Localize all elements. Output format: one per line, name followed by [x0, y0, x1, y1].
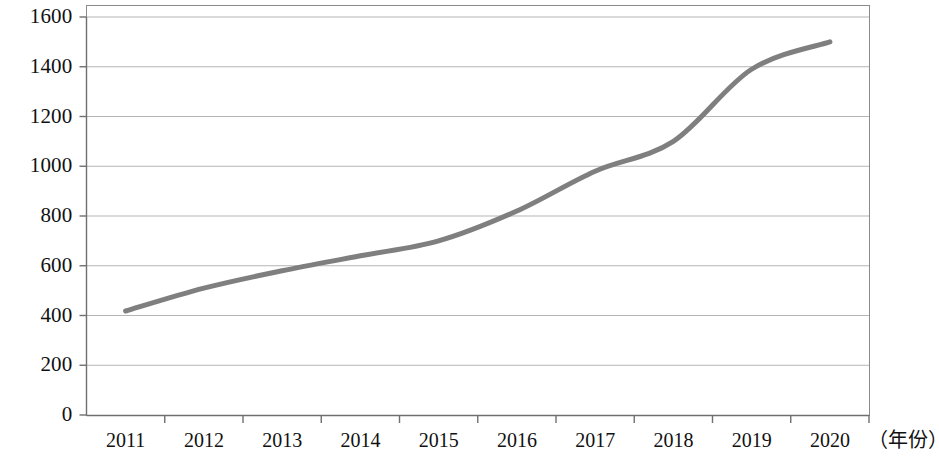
y-axis-tick-label: 1000 [30, 155, 73, 176]
x-axis-tick-label: 2011 [86, 430, 166, 450]
x-axis-unit-label: （年份） [868, 430, 939, 450]
x-axis-ticks [165, 415, 869, 423]
x-axis-tick-label: 2020 [790, 430, 870, 450]
x-axis-tick-label: 2015 [399, 430, 479, 450]
x-axis-tick-label: 2018 [633, 430, 713, 450]
y-axis-tick-label: 600 [40, 255, 72, 276]
y-axis-tick-label: 800 [40, 205, 72, 226]
y-axis-tick-label: 1400 [30, 56, 73, 77]
x-axis-tick-label: 2019 [712, 430, 792, 450]
y-axis-tick-label: 1600 [30, 6, 73, 27]
y-axis-tick-label: 400 [40, 305, 72, 326]
x-axis-tick-label: 2013 [242, 430, 322, 450]
x-axis-tick-label: 2017 [555, 430, 635, 450]
y-axis-tick-label: 200 [40, 354, 72, 375]
y-axis-tick-label: 0 [62, 404, 73, 425]
x-axis-tick-label: 2016 [477, 430, 557, 450]
x-axis-tick-label: 2014 [320, 430, 400, 450]
x-axis-tick-label: 2012 [164, 430, 244, 450]
y-axis-tick-label: 1200 [30, 106, 73, 127]
y-axis-ticks [80, 17, 87, 415]
